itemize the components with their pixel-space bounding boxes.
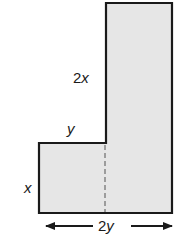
label-step-width: y <box>66 120 76 137</box>
l-shape-diagram: 2x y x 2y <box>0 0 185 243</box>
label-tall-height: 2x <box>73 69 89 86</box>
label-total-width: 2y <box>98 217 115 234</box>
label-short-height: x <box>23 179 32 196</box>
